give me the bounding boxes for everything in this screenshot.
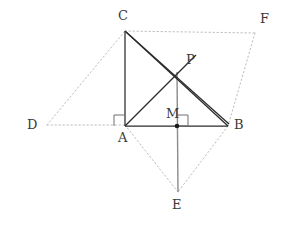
vertex-label-F: F [260,12,269,25]
vertex-label-A: A [118,131,127,144]
vertex-label-E: E [172,198,182,211]
vertex-label-C: C [118,9,128,22]
gray-solid-lines [177,72,178,192]
segment-C-F [125,31,255,33]
vertex-label-P: P [186,53,195,66]
vertex-label-D: D [27,118,37,131]
point-markers [175,124,180,129]
diagram-canvas [0,0,281,229]
geometry-diagram: C F P D M B A E [0,0,281,229]
point-marker-M [175,124,180,129]
segment-F-B [228,33,255,126]
right-angle-at-A [114,115,125,126]
segment-B-E [178,126,228,192]
vertex-label-B: B [234,118,244,131]
segment-P-M-E [177,72,178,192]
vertex-label-M: M [166,107,179,120]
segment-A-E [125,125,178,192]
segment-D-C [47,31,125,125]
